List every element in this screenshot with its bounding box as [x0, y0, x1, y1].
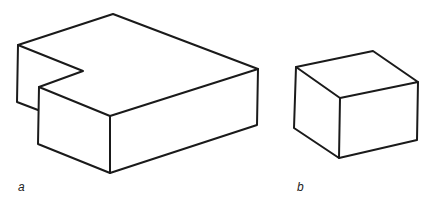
block-b	[294, 51, 418, 158]
block-a-right-face	[110, 69, 258, 173]
block-b-right-face	[339, 82, 418, 158]
block-a	[17, 14, 258, 173]
block-a-front-face	[38, 87, 110, 173]
diagram-canvas	[0, 0, 433, 203]
block-a-back-left-face	[17, 45, 38, 110]
block-b-top-face	[296, 51, 418, 98]
figure-label-a: a	[18, 180, 25, 194]
figure-label-b: b	[297, 180, 304, 194]
block-a-top-face	[18, 14, 258, 116]
